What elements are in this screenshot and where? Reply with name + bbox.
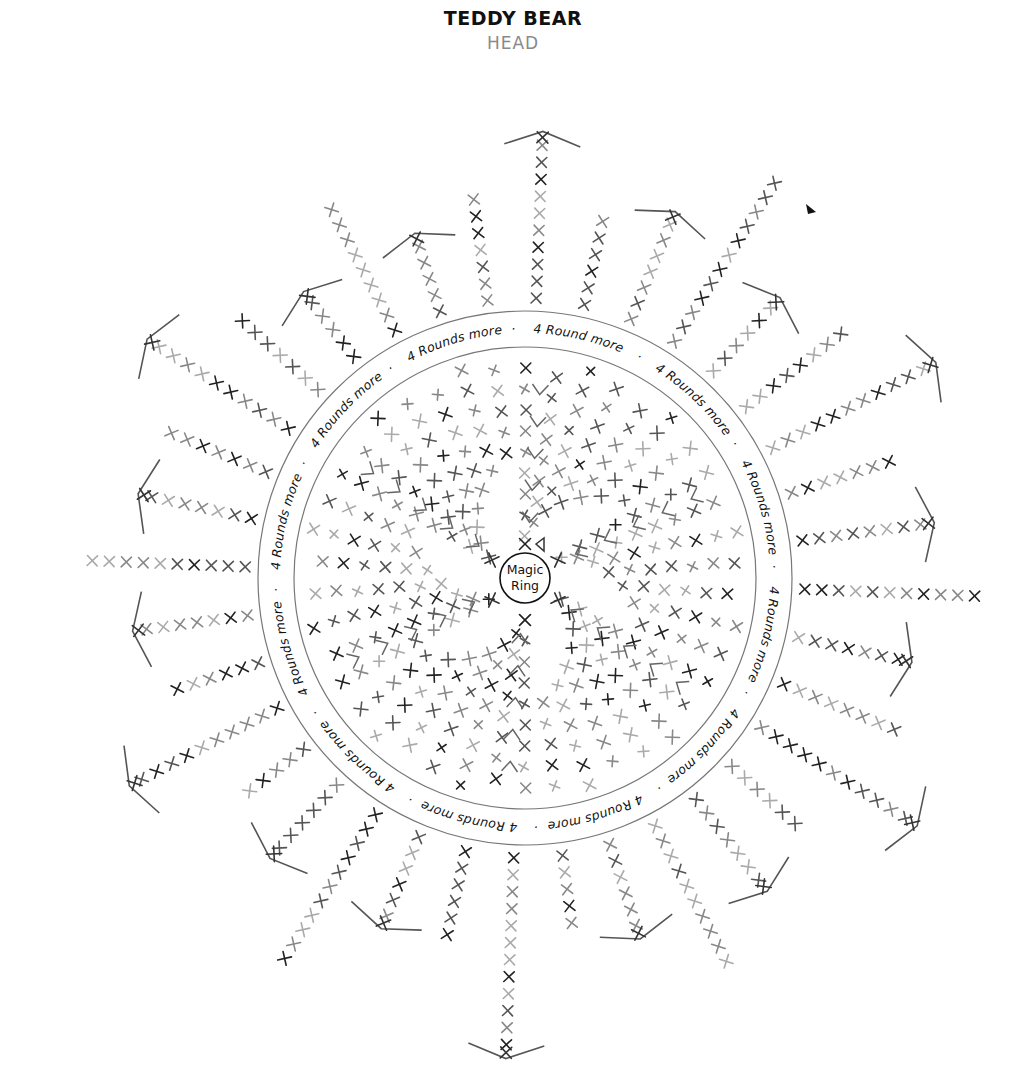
single-crochet-stitch xyxy=(618,494,631,507)
single-crochet-stitch xyxy=(439,408,452,421)
single-crochet-stitch xyxy=(582,282,594,294)
single-crochet-stitch xyxy=(490,657,506,673)
single-crochet-stitch xyxy=(307,803,321,817)
single-crochet-stitch xyxy=(541,434,552,445)
single-crochet-stitch xyxy=(413,458,427,472)
single-crochet-stitch xyxy=(410,507,424,521)
single-crochet-stitch xyxy=(480,278,491,289)
single-crochet-stitch xyxy=(659,584,670,595)
single-crochet-stitch xyxy=(636,618,649,631)
single-crochet-stitch xyxy=(608,668,622,682)
single-crochet-stitch xyxy=(336,675,350,689)
single-crochet-stitch xyxy=(191,617,202,628)
single-crochet-stitch xyxy=(603,567,614,578)
single-crochet-stitch xyxy=(373,584,384,595)
single-crochet-stitch xyxy=(508,870,518,880)
single-crochet-stitch xyxy=(171,683,184,696)
single-crochet-stitch xyxy=(500,448,511,459)
single-crochet-stitch xyxy=(235,314,249,328)
single-crochet-stitch xyxy=(380,562,391,573)
single-crochet-stitch xyxy=(225,612,236,623)
single-crochet-stitch xyxy=(561,884,572,895)
single-crochet-stitch xyxy=(627,635,641,649)
single-crochet-stitch xyxy=(472,503,484,515)
single-crochet-stitch xyxy=(557,850,568,861)
single-crochet-stitch xyxy=(710,819,724,833)
single-crochet-stitch xyxy=(212,505,224,517)
single-crochet-stitch xyxy=(615,578,630,593)
single-crochet-stitch xyxy=(427,474,441,488)
single-crochet-stitch xyxy=(509,853,519,863)
single-crochet-stitch xyxy=(398,698,412,712)
single-crochet-stitch xyxy=(841,402,855,416)
single-crochet-stitch xyxy=(696,909,710,923)
single-crochet-stitch xyxy=(712,940,726,954)
single-crochet-stitch xyxy=(595,653,608,666)
single-crochet-stitch xyxy=(683,664,697,678)
stitch-ray xyxy=(139,315,295,436)
single-crochet-stitch xyxy=(477,261,488,272)
single-crochet-stitch xyxy=(842,643,854,655)
increase-mark-icon xyxy=(532,384,549,395)
single-crochet-stitch xyxy=(649,466,663,480)
increase-mark-icon xyxy=(387,480,404,499)
single-crochet-stitch xyxy=(544,483,560,499)
single-crochet-stitch xyxy=(508,649,519,660)
stitch-ray xyxy=(165,427,272,479)
single-crochet-stitch xyxy=(755,721,769,735)
single-crochet-stitch xyxy=(586,265,598,277)
single-crochet-stitch xyxy=(557,699,569,711)
single-crochet-stitch xyxy=(347,349,361,363)
single-crochet-stitch xyxy=(458,522,472,536)
single-crochet-stitch xyxy=(793,684,806,697)
single-crochet-stitch xyxy=(438,686,452,700)
single-crochet-stitch xyxy=(608,473,622,487)
single-crochet-stitch xyxy=(519,657,529,667)
single-crochet-stitch xyxy=(388,540,404,556)
single-crochet-stitch xyxy=(104,556,114,566)
single-crochet-stitch xyxy=(847,528,858,539)
single-crochet-stitch xyxy=(888,723,901,736)
single-crochet-stitch xyxy=(210,376,224,390)
single-crochet-stitch xyxy=(475,244,486,255)
single-crochet-stitch xyxy=(566,917,577,928)
single-crochet-stitch xyxy=(647,601,663,617)
single-crochet-stitch xyxy=(165,757,179,771)
single-crochet-stitch xyxy=(700,806,714,820)
single-crochet-stitch xyxy=(537,132,548,143)
single-crochet-stitch xyxy=(442,490,455,503)
crochet-chart: 4 Rounds more·4 Rounds more·4 Rounds mor… xyxy=(0,0,1026,1084)
single-crochet-stitch xyxy=(669,606,681,618)
single-crochet-stitch xyxy=(650,426,664,440)
single-crochet-stitch xyxy=(336,336,350,350)
single-crochet-stitch xyxy=(355,476,369,490)
single-crochet-stitch xyxy=(270,763,284,777)
single-crochet-stitch xyxy=(695,640,708,653)
single-crochet-stitch xyxy=(441,929,453,941)
single-crochet-stitch xyxy=(470,211,481,222)
stitch-ray xyxy=(739,327,847,414)
single-crochet-stitch xyxy=(459,446,471,458)
stitch-ray xyxy=(282,279,361,363)
single-crochet-stitch xyxy=(868,587,878,597)
single-crochet-stitch xyxy=(586,555,600,569)
single-crochet-stitch xyxy=(686,306,700,320)
single-crochet-stitch xyxy=(856,710,869,723)
single-crochet-stitch xyxy=(720,955,734,969)
magic-ring-label-line2: Ring xyxy=(511,578,539,593)
single-crochet-stitch xyxy=(359,822,373,836)
single-crochet-stitch xyxy=(759,191,773,205)
single-crochet-stitch xyxy=(619,887,632,900)
single-crochet-stitch xyxy=(672,864,686,878)
single-crochet-stitch xyxy=(449,895,461,907)
single-crochet-stitch xyxy=(521,783,531,793)
single-crochet-stitch xyxy=(438,450,450,462)
single-crochet-stitch xyxy=(883,456,896,469)
single-crochet-stitch xyxy=(350,584,365,599)
stitch-ray xyxy=(468,194,493,306)
single-crochet-stitch xyxy=(150,765,164,779)
single-crochet-stitch xyxy=(628,597,640,609)
stitch-ray xyxy=(648,819,733,968)
single-crochet-stitch xyxy=(256,773,270,787)
single-crochet-stitch xyxy=(326,526,342,542)
